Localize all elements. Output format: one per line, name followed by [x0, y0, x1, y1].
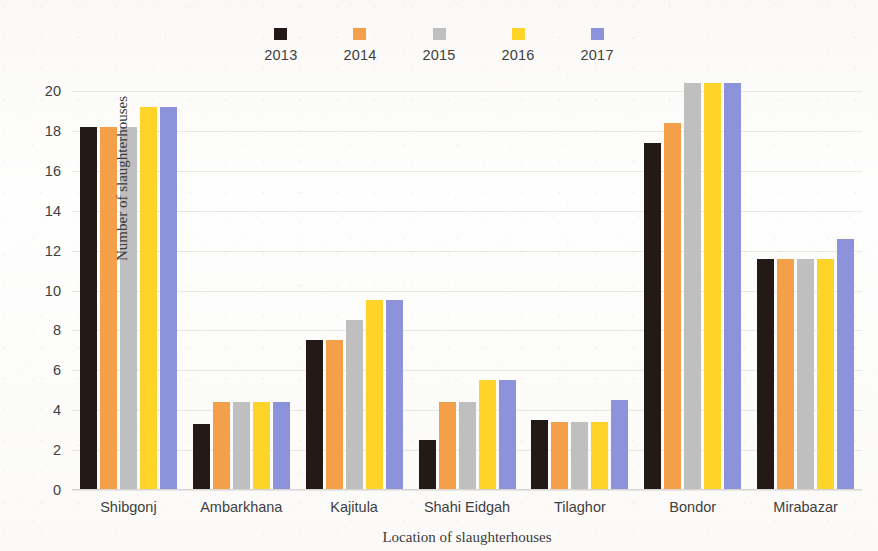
y-axis-tick-label: 16	[45, 163, 61, 179]
y-axis-tick-label: 14	[45, 203, 61, 219]
bar[interactable]	[591, 422, 608, 490]
bar[interactable]	[551, 422, 568, 490]
bar[interactable]	[306, 340, 323, 490]
bar-group-kajitula	[298, 91, 411, 490]
bar[interactable]	[386, 300, 403, 490]
y-axis-tick-label: 18	[45, 123, 61, 139]
x-axis-title: Location of slaughterhouses	[72, 529, 862, 546]
bar-group-mirabazar	[749, 91, 862, 490]
bar[interactable]	[757, 259, 774, 490]
bar[interactable]	[499, 380, 516, 490]
bar[interactable]	[140, 107, 157, 490]
x-axis-tick-label: Bondor	[636, 499, 749, 515]
y-axis-title: Number of slaughterhouses	[114, 49, 131, 309]
bar[interactable]	[160, 107, 177, 490]
x-axis-tick-labels: ShibgonjAmbarkhanaKajitulaShahi EidgahTi…	[72, 499, 862, 515]
bar[interactable]	[346, 320, 363, 490]
legend-swatch-icon	[274, 28, 287, 40]
x-axis-line	[72, 489, 862, 490]
bar[interactable]	[459, 402, 476, 490]
x-axis-tick-label: Shahi Eidgah	[411, 499, 524, 515]
legend-label: 2015	[422, 47, 455, 63]
bar[interactable]	[233, 402, 250, 490]
bar[interactable]	[664, 123, 681, 490]
y-axis-tick-label: 4	[53, 402, 61, 418]
y-axis-tick-label: 8	[53, 322, 61, 338]
x-axis-tick-label: Tilaghor	[523, 499, 636, 515]
legend-item-2013[interactable]: 2013	[264, 28, 297, 63]
legend-item-2017[interactable]: 2017	[581, 28, 614, 63]
bar[interactable]	[797, 259, 814, 490]
bar[interactable]	[366, 300, 383, 490]
bar[interactable]	[273, 402, 290, 490]
bar[interactable]	[213, 402, 230, 490]
y-axis-tick-label: 12	[45, 243, 61, 259]
bar[interactable]	[193, 424, 210, 490]
chart-legend: 20132014201520162017	[0, 28, 878, 63]
x-axis-tick-label: Shibgonj	[72, 499, 185, 515]
bar[interactable]	[777, 259, 794, 490]
bar-group-tilaghor	[523, 91, 636, 490]
legend-item-2015[interactable]: 2015	[422, 28, 455, 63]
bar[interactable]	[326, 340, 343, 490]
bar[interactable]	[817, 259, 834, 490]
bar-group-ambarkhana	[185, 91, 298, 490]
legend-label: 2016	[502, 47, 535, 63]
y-axis-tick-label: 0	[53, 482, 61, 498]
legend-item-2016[interactable]: 2016	[502, 28, 535, 63]
bar[interactable]	[419, 440, 436, 490]
bar[interactable]	[837, 239, 854, 490]
bar[interactable]	[704, 83, 721, 490]
legend-item-2014[interactable]: 2014	[343, 28, 376, 63]
y-axis-tick-label: 2	[53, 442, 61, 458]
bar-group-bondor	[636, 91, 749, 490]
legend-label: 2017	[581, 47, 614, 63]
bar[interactable]	[571, 422, 588, 490]
bar[interactable]	[439, 402, 456, 490]
bar[interactable]	[684, 83, 701, 490]
legend-label: 2014	[343, 47, 376, 63]
x-axis-tick-label: Ambarkhana	[185, 499, 298, 515]
x-axis-tick-label: Kajitula	[298, 499, 411, 515]
y-axis-tick-label: 6	[53, 362, 61, 378]
bar[interactable]	[531, 420, 548, 490]
bar[interactable]	[611, 400, 628, 490]
bar[interactable]	[479, 380, 496, 490]
bar[interactable]	[80, 127, 97, 490]
legend-swatch-icon	[591, 28, 604, 40]
y-axis-tick-label: 10	[45, 283, 61, 299]
bar[interactable]	[724, 83, 741, 490]
gridline	[72, 490, 862, 491]
chart-page: 20132014201520162017 20181614121086420 S…	[0, 0, 878, 551]
legend-label: 2013	[264, 47, 297, 63]
y-axis-tick-label: 20	[45, 83, 61, 99]
bar[interactable]	[644, 143, 661, 490]
bar[interactable]	[253, 402, 270, 490]
legend-swatch-icon	[433, 28, 446, 40]
legend-swatch-icon	[353, 28, 366, 40]
plot-area: 20181614121086420	[72, 91, 862, 490]
legend-swatch-icon	[512, 28, 525, 40]
bar-groups	[72, 91, 862, 490]
x-axis-tick-label: Mirabazar	[749, 499, 862, 515]
bar-group-shahi-eidgah	[411, 91, 524, 490]
